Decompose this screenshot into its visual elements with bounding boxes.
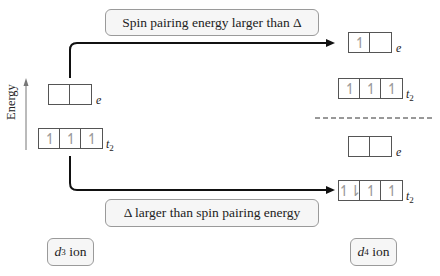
orbital-box: ↿ bbox=[360, 181, 381, 200]
orbital-box: ↿ bbox=[339, 79, 360, 98]
orbital-box: ↿ bbox=[381, 79, 402, 98]
orbital-box: ↿ bbox=[60, 129, 81, 148]
low-spin-path bbox=[70, 156, 328, 190]
low-spin-t2-label: t2 bbox=[406, 189, 414, 205]
low-spin-arrowhead-icon bbox=[326, 186, 335, 194]
left-e-label: e bbox=[96, 93, 101, 108]
left-t2-orbitals: ↿ ↿ ↿ bbox=[38, 128, 103, 149]
d3-ion-label: d3 ion bbox=[47, 238, 94, 266]
orbital-box: ↿ bbox=[349, 33, 370, 52]
low-spin-condition-label: Δ larger than spin pairing energy bbox=[105, 199, 319, 227]
low-spin-t2-orbitals: ↿⇂ ↿ ↿ bbox=[338, 180, 403, 201]
high-spin-t2-orbitals: ↿ ↿ ↿ bbox=[338, 78, 403, 99]
orbital-box: ↿ bbox=[81, 129, 102, 148]
high-spin-e-orbitals: ↿ bbox=[348, 32, 392, 53]
orbital-box bbox=[349, 137, 370, 156]
high-spin-t2-label: t2 bbox=[406, 87, 414, 103]
orbital-box: ↿ bbox=[360, 79, 381, 98]
left-e-orbitals bbox=[48, 84, 92, 105]
left-t2-label: t2 bbox=[106, 137, 114, 153]
orbital-box bbox=[49, 85, 70, 104]
orbital-box: ↿⇂ bbox=[339, 181, 360, 200]
energy-axis-label: Energy bbox=[4, 84, 19, 120]
high-spin-path bbox=[70, 43, 328, 78]
high-spin-condition-label: Spin pairing energy larger than Δ bbox=[105, 9, 319, 36]
orbital-box bbox=[370, 33, 391, 52]
orbital-box bbox=[70, 85, 91, 104]
d4-ion-label: d4 ion bbox=[350, 238, 397, 266]
low-spin-e-orbitals bbox=[348, 136, 392, 157]
orbital-box bbox=[370, 137, 391, 156]
high-spin-e-label: e bbox=[396, 41, 401, 56]
energy-axis-arrowhead-icon bbox=[24, 78, 29, 86]
high-spin-arrowhead-icon bbox=[326, 39, 335, 47]
low-spin-e-label: e bbox=[396, 145, 401, 160]
orbital-box: ↿ bbox=[381, 181, 402, 200]
orbital-box: ↿ bbox=[39, 129, 60, 148]
